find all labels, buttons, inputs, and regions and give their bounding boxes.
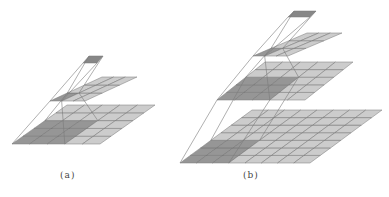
layer-3	[180, 110, 382, 163]
caption-a: (a)	[60, 170, 75, 180]
grid-cell-receptive	[83, 56, 103, 63]
layer-1	[253, 33, 342, 56]
panel-a-pyramid	[12, 56, 155, 144]
layer-2	[12, 105, 155, 144]
receptive-field-figure	[0, 0, 389, 197]
layer-1	[50, 77, 137, 101]
layer-0	[83, 56, 103, 63]
caption-b: (b)	[243, 170, 259, 180]
layer-2	[217, 62, 353, 100]
panel-b-pyramid	[180, 11, 382, 163]
